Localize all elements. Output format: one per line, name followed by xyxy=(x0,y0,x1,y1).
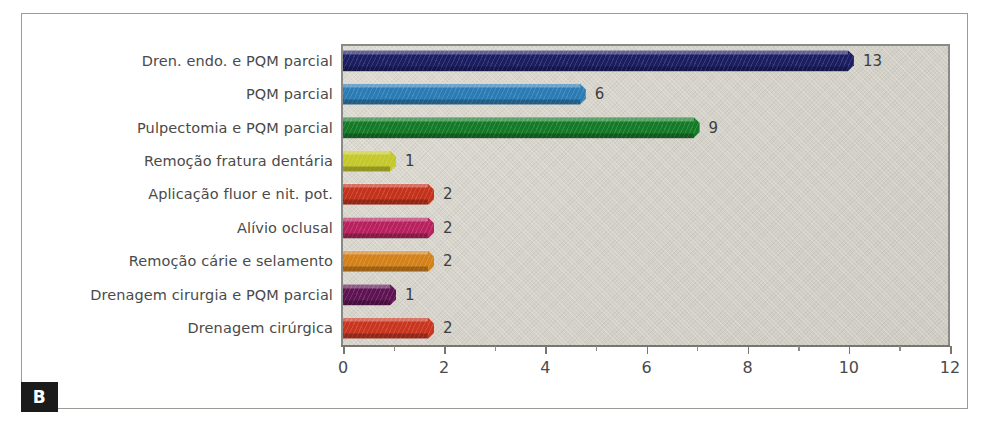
bar-value-label: 1 xyxy=(405,286,415,304)
bar-highlight xyxy=(343,184,428,188)
bar-highlight xyxy=(343,284,390,288)
category-label: Drenagem cirúrgica xyxy=(188,320,333,336)
x-tick-label: 0 xyxy=(338,358,348,377)
bar-row: Drenagem cirúrgica2 xyxy=(0,312,986,345)
x-tick-label: 12 xyxy=(940,358,960,377)
bar xyxy=(343,318,434,339)
bar-shadow xyxy=(343,267,428,272)
bar-highlight xyxy=(343,151,390,155)
bar-value-label: 2 xyxy=(443,219,453,237)
bar-shadow xyxy=(343,133,694,138)
panel-letter-badge: B xyxy=(21,382,58,412)
bar-highlight xyxy=(343,217,428,221)
bar-row: PQM parcial6 xyxy=(0,77,986,110)
bar-row: Pulpectomia e PQM parcial9 xyxy=(0,111,986,144)
x-tick-label: 10 xyxy=(839,358,859,377)
bar-row: Dren. endo. e PQM parcial13 xyxy=(0,44,986,77)
bar xyxy=(343,151,396,172)
x-tick-major xyxy=(849,346,851,354)
bar-body xyxy=(343,117,700,138)
bar-row: Remoção cárie e selamento2 xyxy=(0,245,986,278)
x-tick-minor xyxy=(394,346,395,351)
bar-value-label: 1 xyxy=(405,152,415,170)
bar-value-label: 2 xyxy=(443,185,453,203)
bar xyxy=(343,50,854,71)
bar-body xyxy=(343,217,434,238)
bar-body xyxy=(343,184,434,205)
x-tick-minor xyxy=(495,346,496,351)
x-tick-minor xyxy=(798,346,799,351)
x-tick-major xyxy=(647,346,649,354)
bar-shadow xyxy=(343,334,428,339)
bar-value-label: 6 xyxy=(595,85,605,103)
bar-value-label: 2 xyxy=(443,252,453,270)
x-axis-line xyxy=(341,345,950,347)
bar-body xyxy=(343,284,396,305)
x-tick-major xyxy=(950,346,952,354)
category-label: Pulpectomia e PQM parcial xyxy=(137,120,333,136)
category-label: Alívio oclusal xyxy=(237,220,333,236)
bar-row: Remoção fratura dentária1 xyxy=(0,144,986,177)
category-label: Remoção cárie e selamento xyxy=(129,253,333,269)
bar-highlight xyxy=(343,318,428,322)
x-tick-label: 6 xyxy=(641,358,651,377)
x-tick-minor xyxy=(899,346,900,351)
x-tick-major xyxy=(748,346,750,354)
x-tick-major xyxy=(545,346,547,354)
bar xyxy=(343,251,434,272)
bar-body xyxy=(343,318,434,339)
bar-value-label: 13 xyxy=(863,52,882,70)
x-tick-label: 4 xyxy=(540,358,550,377)
category-label: PQM parcial xyxy=(246,86,333,102)
bar-shadow xyxy=(343,66,848,71)
bar-highlight xyxy=(343,50,848,54)
bar-shadow xyxy=(343,167,390,172)
bar-highlight xyxy=(343,117,694,121)
bar-value-label: 2 xyxy=(443,319,453,337)
bar xyxy=(343,84,586,105)
bar-row: Drenagem cirurgia e PQM parcial1 xyxy=(0,278,986,311)
x-tick-minor xyxy=(596,346,597,351)
category-label: Drenagem cirurgia e PQM parcial xyxy=(90,287,333,303)
bar-shadow xyxy=(343,100,580,105)
bar xyxy=(343,184,434,205)
x-tick-label: 8 xyxy=(743,358,753,377)
figure-panel-b: Dren. endo. e PQM parcial13PQM parcial6P… xyxy=(0,0,986,429)
bar-highlight xyxy=(343,84,580,88)
x-tick-major xyxy=(343,346,345,354)
category-label: Dren. endo. e PQM parcial xyxy=(142,53,333,69)
bar-highlight xyxy=(343,251,428,255)
bar-body xyxy=(343,151,396,172)
bar xyxy=(343,217,434,238)
bar-body xyxy=(343,251,434,272)
bar-shadow xyxy=(343,300,390,305)
bar-row: Aplicação fluor e nit. pot.2 xyxy=(0,178,986,211)
category-label: Remoção fratura dentária xyxy=(144,153,333,169)
bar-body xyxy=(343,50,854,71)
bar xyxy=(343,117,700,138)
bar-value-label: 9 xyxy=(709,119,719,137)
bar-body xyxy=(343,84,586,105)
bar xyxy=(343,284,396,305)
bar-row: Alívio oclusal2 xyxy=(0,211,986,244)
bar-shadow xyxy=(343,233,428,238)
x-tick-minor xyxy=(697,346,698,351)
x-tick-label: 2 xyxy=(439,358,449,377)
category-label: Aplicação fluor e nit. pot. xyxy=(148,186,333,202)
bar-shadow xyxy=(343,200,428,205)
x-tick-major xyxy=(444,346,446,354)
